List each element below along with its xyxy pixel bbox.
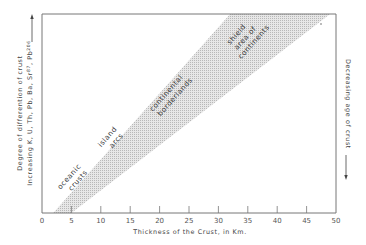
x-tick-label: 35 (243, 217, 252, 225)
x-tick-label: 10 (96, 217, 105, 225)
x-tick-label: 40 (273, 217, 282, 225)
y-axis-subtitle: Increasing K, U, Th, Pb, Ba, Sr87, Pb206 (26, 40, 35, 185)
x-tick-label: 0 (40, 217, 44, 225)
svg-text:Decreasing age of crust: Decreasing age of crust (344, 59, 352, 149)
crust-band (53, 14, 330, 213)
chart: 05101520253035404550 oceaniccrustsisland… (0, 0, 366, 245)
x-tick-label: 45 (302, 217, 311, 225)
y-axis-title: Degree of differention of crust (16, 55, 24, 170)
x-tick-label: 15 (126, 217, 135, 225)
up-arrow-icon (30, 14, 33, 42)
y-axis-title-line2: Increasing K, U, Th, Pb, Ba, Sr87, Pb206 (26, 40, 35, 185)
x-tick-label: 25 (185, 217, 194, 225)
dot-marker (320, 23, 322, 25)
x-tick-label: 20 (155, 217, 164, 225)
x-tick-label: 30 (214, 217, 223, 225)
x-tick-label: 50 (332, 217, 341, 225)
down-arrow-icon (344, 155, 347, 180)
x-tick-label: 5 (69, 217, 73, 225)
x-axis-title: Thickness of the Crust, in Km. (132, 228, 247, 236)
right-axis-title: Decreasing age of crust (344, 59, 352, 149)
y-axis-title-line1: Degree of differention of crust (16, 55, 24, 170)
